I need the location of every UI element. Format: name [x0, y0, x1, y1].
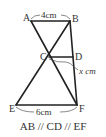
segment-BF: [70, 21, 77, 105]
point-label-A: A: [23, 13, 30, 23]
point-label-D: D: [75, 52, 82, 62]
point-label-E: E: [9, 104, 15, 114]
measure-CD: x cm: [79, 66, 96, 76]
measure-AB: 4cm: [41, 10, 57, 20]
figure-caption: AB // CD // EF: [0, 120, 106, 132]
measure-EF: 6cm: [36, 107, 52, 117]
point-label-B: B: [72, 14, 79, 24]
point-label-F: F: [79, 104, 85, 114]
point-label-C: C: [40, 52, 47, 62]
segment-AF: [31, 21, 77, 105]
segment-BE: [16, 21, 70, 105]
